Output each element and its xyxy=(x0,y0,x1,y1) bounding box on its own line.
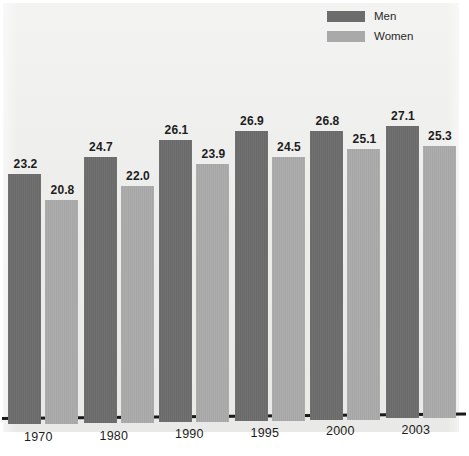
x-axis-tick-1995: 1995 xyxy=(251,426,280,440)
bar-value-women-1970: 20.8 xyxy=(44,183,81,197)
bar-women-1980 xyxy=(121,186,154,423)
x-axis-tick-1970: 1970 xyxy=(24,430,53,444)
bar-value-women-1990: 23.9 xyxy=(195,147,232,161)
bar-men-1970 xyxy=(8,174,41,424)
bar-value-men-2003: 27.1 xyxy=(385,109,422,123)
bar-value-men-1990: 26.1 xyxy=(158,123,195,137)
bar-men-2003 xyxy=(386,126,419,418)
bar-value-women-1980: 22.0 xyxy=(120,169,157,183)
bar-women-2003 xyxy=(423,146,456,419)
bar-women-2000 xyxy=(347,149,380,420)
bar-value-men-1970: 23.2 xyxy=(7,157,44,171)
bar-value-men-1995: 26.9 xyxy=(234,114,271,128)
bar-men-1995 xyxy=(235,131,268,421)
bar-men-2000 xyxy=(310,131,343,420)
bar-value-men-1980: 24.7 xyxy=(83,140,120,154)
x-axis-tick-1980: 1980 xyxy=(100,429,129,443)
bar-men-1990 xyxy=(159,140,192,421)
bar-women-1970 xyxy=(45,200,78,424)
bar-chart: Men Women 23.220.8197024.722.0198026.123… xyxy=(0,0,469,456)
bar-men-1980 xyxy=(84,157,117,423)
bar-value-men-2000: 26.8 xyxy=(309,114,346,128)
bar-value-women-2003: 25.3 xyxy=(422,129,459,143)
bar-value-women-1995: 24.5 xyxy=(271,140,308,154)
x-axis-tick-1990: 1990 xyxy=(175,427,204,441)
bars-layer: 23.220.8197024.722.0198026.123.9199026.9… xyxy=(0,0,469,456)
x-axis-tick-2003: 2003 xyxy=(402,423,431,437)
bar-women-1995 xyxy=(272,157,305,421)
x-axis-tick-2000: 2000 xyxy=(326,424,355,438)
bar-women-1990 xyxy=(196,164,229,422)
bar-value-women-2000: 25.1 xyxy=(346,132,383,146)
